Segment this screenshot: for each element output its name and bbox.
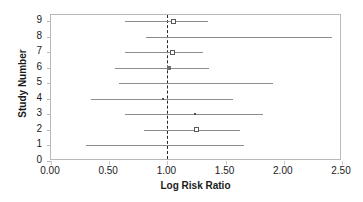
forest-plot-chart: Study Number Log Risk Ratio 0.000.501.00… (0, 0, 363, 202)
x-axis-tick-label: 2.00 (263, 166, 303, 176)
y-axis-tick-label: 4 (20, 93, 42, 103)
confidence-interval-line (119, 83, 274, 84)
confidence-interval-line (144, 130, 239, 131)
study-point-estimate-marker (194, 113, 196, 115)
y-axis-tick-mark (47, 114, 51, 115)
y-axis-tick-label: 8 (20, 31, 42, 41)
y-axis-tick-mark (47, 145, 51, 146)
x-axis-tick-label: 1.50 (205, 166, 245, 176)
y-axis-tick-label: 9 (20, 15, 42, 25)
y-axis-tick-label: 6 (20, 62, 42, 72)
confidence-interval-line (125, 52, 203, 53)
study-point-estimate-marker (194, 127, 199, 132)
study-point-estimate-marker (162, 98, 164, 100)
y-axis-tick-mark (47, 161, 51, 162)
x-axis-tick-label: 2.50 (321, 166, 361, 176)
x-axis-tick-label: 0.00 (30, 166, 70, 176)
plot-area (50, 14, 341, 160)
x-axis-tick-label: 1.00 (146, 166, 186, 176)
y-axis-tick-label: 5 (20, 77, 42, 87)
x-axis-tick-label: 0.50 (88, 166, 128, 176)
y-axis-tick-mark (47, 37, 51, 38)
y-axis-tick-label: 0 (20, 155, 42, 165)
confidence-interval-line (146, 37, 331, 38)
y-axis-tick-label: 3 (20, 108, 42, 118)
y-axis-tick-mark (47, 52, 51, 53)
study-point-estimate-marker (170, 50, 175, 55)
y-axis-tick-mark (47, 68, 51, 69)
confidence-interval-line (125, 21, 208, 22)
y-axis-tick-label: 7 (20, 46, 42, 56)
y-axis-tick-mark (47, 21, 51, 22)
confidence-interval-line (86, 145, 244, 146)
y-axis-tick-mark (47, 83, 51, 84)
y-axis-tick-label: 2 (20, 124, 42, 134)
confidence-interval-line (115, 68, 209, 69)
y-axis-tick-mark (47, 130, 51, 131)
x-axis-title: Log Risk Ratio (50, 180, 341, 191)
study-point-estimate-marker (171, 19, 176, 24)
study-point-estimate-marker (167, 66, 171, 70)
y-axis-tick-label: 1 (20, 139, 42, 149)
y-axis-tick-mark (47, 99, 51, 100)
